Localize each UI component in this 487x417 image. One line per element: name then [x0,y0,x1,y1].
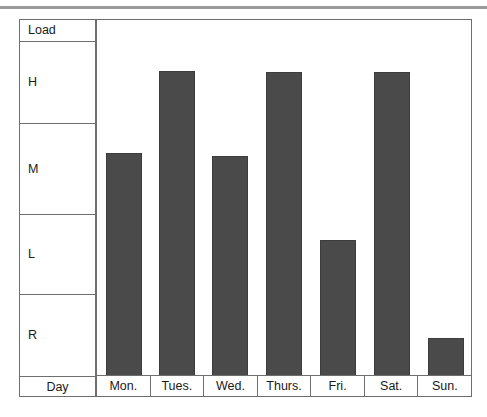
legend-header-cell: Load [20,20,95,42]
legend-band-label-h: H [28,76,37,89]
legend-band-l: L [20,215,95,295]
x-axis-label-row: Mon. Tues. Wed. Thurs. Fri. Sat. Sun. [96,375,472,397]
legend-band-label-r: R [28,329,37,342]
x-axis-label-sat: Sat. [365,376,419,396]
legend-band-label-l: L [28,248,35,261]
x-axis-label-wed: Wed. [204,376,258,396]
legend-footer-cell: Day [20,376,95,398]
x-axis-label-tues-text: Tues. [161,380,192,393]
bar-sat [374,72,410,376]
bar-wed [212,156,248,376]
legend-footer-label: Day [46,381,68,394]
bar-tues [159,71,195,376]
x-axis-label-tues: Tues. [151,376,205,396]
legend-band-r: R [20,295,95,376]
x-axis-label-sat-text: Sat. [380,380,402,393]
load-by-day-bar-chart: Load H M L R Day [19,19,472,397]
x-axis-label-wed-text: Wed. [216,380,245,393]
legend-band-h: H [20,42,95,124]
legend-header-label: Load [28,24,56,37]
x-axis-label-thurs-text: Thurs. [266,380,301,393]
x-axis-label-sun-text: Sun. [432,380,458,393]
x-axis-label-sun: Sun. [418,376,471,396]
legend-band-m: M [20,124,95,215]
bar-sun [428,338,464,376]
plot-area: Mon. Tues. Wed. Thurs. Fri. Sat. Sun. [96,19,472,397]
bar-fri [320,240,356,376]
x-axis-label-fri: Fri. [311,376,365,396]
bar-thurs [266,72,302,376]
top-divider-rule [0,6,487,9]
x-axis-label-thurs: Thurs. [258,376,312,396]
clipped-caption-strip [0,411,487,417]
bar-mon [106,153,142,376]
x-axis-label-mon-text: Mon. [109,380,137,393]
x-axis-label-fri-text: Fri. [329,380,347,393]
plot-frame [96,19,472,375]
legend-band-label-m: M [28,163,38,176]
x-axis-label-mon: Mon. [97,376,151,396]
load-legend-column: Load H M L R Day [19,19,96,397]
